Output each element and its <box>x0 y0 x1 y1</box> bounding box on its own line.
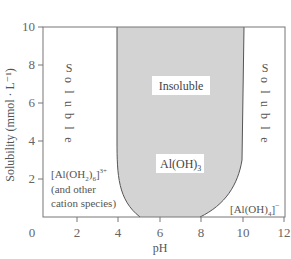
insoluble-label: Insoluble <box>159 79 204 93</box>
soluble-left-label: S o l u b l e <box>62 61 76 143</box>
svg-text:2: 2 <box>29 171 36 186</box>
svg-text:10: 10 <box>237 225 250 240</box>
svg-text:l: l <box>62 90 76 94</box>
svg-text:l: l <box>62 126 76 130</box>
x-axis-ticks <box>77 217 284 222</box>
svg-text:o: o <box>258 77 272 83</box>
svg-text:b: b <box>258 113 272 119</box>
y-axis-label: Solubility (mmol · L⁻¹) <box>3 68 17 182</box>
soluble-right-label: S o l u b l e <box>258 61 272 143</box>
aloh3-label: Al(OH)3 <box>160 157 201 173</box>
svg-text:0: 0 <box>29 225 36 240</box>
svg-text:cation species): cation species) <box>51 197 116 210</box>
insoluble-region <box>117 27 244 217</box>
svg-text:u: u <box>62 101 76 107</box>
svg-text:4: 4 <box>115 225 122 240</box>
svg-text:4: 4 <box>29 133 36 148</box>
svg-text:S: S <box>262 61 269 75</box>
y-axis-ticks <box>38 27 43 179</box>
svg-text:l: l <box>258 90 272 94</box>
svg-text:(and other: (and other <box>51 183 96 196</box>
anion-species-label: [Al(OH)4]− <box>230 201 280 218</box>
solubility-chart: 10 8 6 4 2 0 2 4 6 8 10 12 pH Solubility… <box>0 0 291 259</box>
svg-text:u: u <box>258 101 272 107</box>
svg-text:S: S <box>66 61 73 75</box>
svg-text:10: 10 <box>22 19 35 34</box>
x-axis-label: pH <box>153 241 168 255</box>
svg-text:o: o <box>62 77 76 83</box>
svg-text:e: e <box>62 137 76 142</box>
svg-text:2: 2 <box>74 225 81 240</box>
svg-text:l: l <box>258 126 272 130</box>
x-axis-tick-labels: 0 2 4 6 8 10 12 <box>29 225 291 240</box>
svg-text:6: 6 <box>157 225 164 240</box>
svg-text:6: 6 <box>29 95 36 110</box>
svg-text:[Al(OH2)6]3+: [Al(OH2)6]3+ <box>51 167 107 183</box>
svg-text:8: 8 <box>29 57 36 72</box>
y-axis-tick-labels: 10 8 6 4 2 <box>22 19 36 186</box>
svg-text:b: b <box>62 113 76 119</box>
svg-text:8: 8 <box>198 225 205 240</box>
cation-species-label: [Al(OH2)6]3+ (and other cation species) <box>51 167 116 210</box>
svg-text:e: e <box>258 137 272 142</box>
svg-text:12: 12 <box>278 225 291 240</box>
